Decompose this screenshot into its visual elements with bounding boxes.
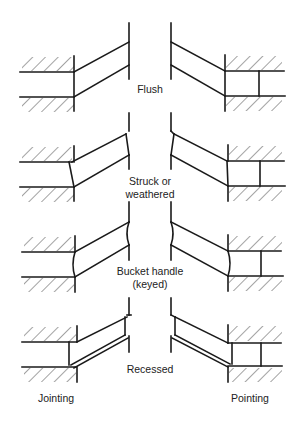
label-jointing: Jointing — [26, 392, 86, 405]
pointing-wall-recessed — [171, 298, 282, 382]
label-struck: Struck or weathered — [110, 175, 190, 201]
label-bucket-line2: (keyed) — [105, 278, 195, 291]
jointing-wall-flush — [20, 23, 129, 112]
label-bucket-handle: Bucket handle (keyed) — [105, 265, 195, 291]
label-pointing: Pointing — [220, 392, 280, 405]
label-struck-line2: weathered — [110, 188, 190, 201]
label-flush: Flush — [120, 83, 180, 96]
pointing-wall-flush — [171, 23, 285, 111]
row-flush — [20, 23, 285, 112]
label-recessed: Recessed — [115, 363, 185, 376]
mortar-joint-diagram — [0, 0, 304, 421]
label-bucket-line1: Bucket handle — [105, 265, 195, 278]
label-struck-line1: Struck or — [110, 175, 190, 188]
